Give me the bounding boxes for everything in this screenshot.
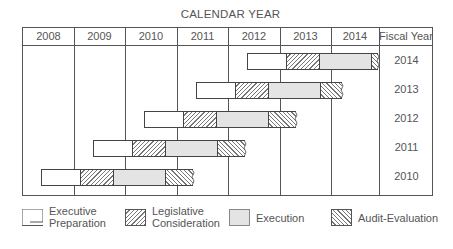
fiscal-year-label: 2012 (380, 112, 433, 124)
fiscal-year-label: 2014 (380, 54, 433, 66)
legislative-consideration-segment (286, 53, 319, 70)
budget-cycle-grid: 2008 2009 2010 2011 2012 2013 2014 Fisca… (22, 27, 433, 196)
legend-label: Legislative Consideration (152, 205, 220, 229)
audit-evaluation-swatch (331, 209, 352, 226)
legislative-consideration-segment (80, 169, 113, 186)
legend: Executive Preparation Legislative Consid… (0, 205, 453, 245)
year-header-2013: 2013 (280, 28, 331, 45)
break-mark-icon (294, 111, 298, 128)
executive-preparation-segment (41, 169, 80, 186)
legislative-consideration-segment (235, 82, 268, 99)
audit-evaluation-segment (320, 82, 342, 99)
executive-preparation-swatch (22, 209, 43, 226)
audit-evaluation-segment (165, 169, 193, 186)
break-mark-icon (376, 53, 380, 70)
legislative-consideration-swatch (125, 209, 146, 226)
audit-evaluation-segment (268, 111, 296, 128)
execution-segment (165, 140, 217, 157)
break-mark-icon (340, 82, 344, 99)
legislative-consideration-segment (183, 111, 216, 128)
fiscal-year-header: Fiscal Year (379, 28, 433, 45)
audit-evaluation-segment (217, 140, 245, 157)
year-header-2014: 2014 (331, 28, 379, 45)
fiscal-year-label: 2013 (380, 83, 433, 95)
execution-segment (268, 82, 320, 99)
year-header-2009: 2009 (74, 28, 125, 45)
executive-preparation-segment (93, 140, 132, 157)
execution-swatch (229, 209, 250, 226)
legislative-consideration-segment (132, 140, 165, 157)
fiscal-year-label: 2010 (380, 170, 433, 182)
legend-label: Execution (256, 212, 304, 224)
fiscal-year-label: 2011 (380, 141, 433, 153)
execution-segment (216, 111, 268, 128)
executive-preparation-segment (247, 53, 286, 70)
diagram-title: CALENDAR YEAR (0, 8, 453, 20)
year-header-2010: 2010 (125, 28, 177, 45)
legend-label: Audit-Evaluation (358, 212, 438, 224)
execution-segment (319, 53, 371, 70)
executive-preparation-segment (144, 111, 183, 128)
legend-label: Executive Preparation (49, 205, 106, 229)
break-mark-icon (191, 169, 195, 186)
year-header-2012: 2012 (228, 28, 280, 45)
year-header-2011: 2011 (177, 28, 228, 45)
year-header-2008: 2008 (23, 28, 74, 45)
break-mark-icon (243, 140, 247, 157)
execution-segment (113, 169, 165, 186)
executive-preparation-segment (196, 82, 235, 99)
